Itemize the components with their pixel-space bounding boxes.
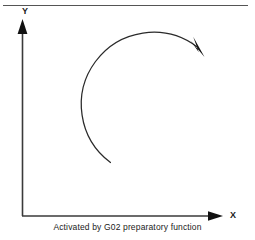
clockwise-arc xyxy=(81,32,196,162)
figure-container: Y X Activated by G02 preparatory functio… xyxy=(0,0,255,240)
arrow-right-icon xyxy=(208,211,223,221)
arrow-up-icon xyxy=(18,19,28,34)
figure-caption: Activated by G02 preparatory function xyxy=(0,223,255,232)
figure-drawing xyxy=(0,0,255,240)
y-axis-label: Y xyxy=(22,7,28,16)
x-axis-label: X xyxy=(230,211,236,220)
arrow-clockwise-icon xyxy=(191,37,205,57)
